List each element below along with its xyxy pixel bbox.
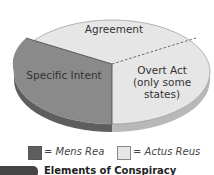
legend: = Mens Rea = Actus Reus [0,146,214,160]
legend-swatch-actus-reus [117,146,131,160]
figure-caption: Elements of Conspiracy [0,166,214,175]
legend-swatch-mens-rea [28,146,42,160]
overt-act-line-3: states) [124,88,200,100]
overt-act-line-2: (only some [124,76,200,88]
slice-label-overt-act: Overt Act (only some states) [124,64,200,100]
caption-text: Elements of Conspiracy [44,165,176,175]
slice-label-agreement: Agreement [82,23,146,35]
legend-label-actus-reus: = Actus Reus [133,146,200,157]
figure-badge [0,166,38,175]
overt-act-line-1: Overt Act [124,64,200,76]
slice-label-specific-intent: Specific Intent [24,69,104,81]
legend-label-mens-rea: = Mens Rea [44,146,104,157]
